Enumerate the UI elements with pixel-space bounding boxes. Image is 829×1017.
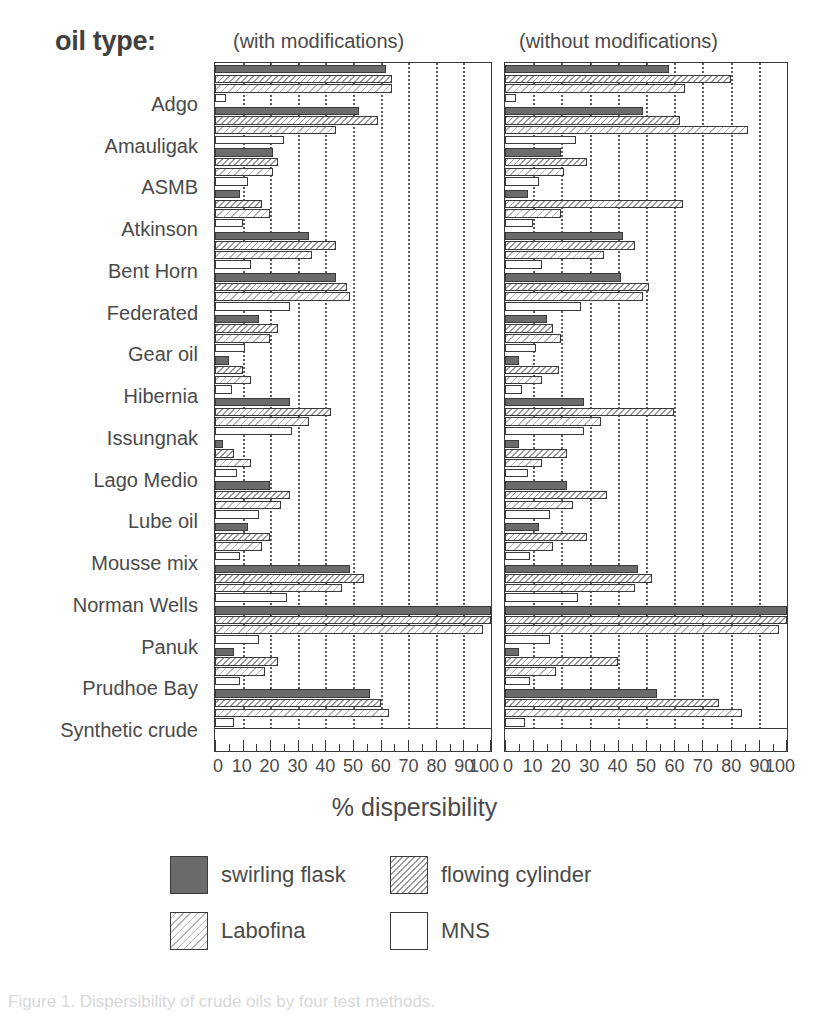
category-label-synthetic-crude: Synthetic crude: [60, 720, 198, 740]
x-tick-40: [325, 740, 326, 751]
bar-mns: [505, 593, 578, 601]
category-label-prudhoe-bay: Prudhoe Bay: [82, 678, 198, 698]
bar-swirling-flask: [215, 65, 386, 73]
bar-group-atkinson: [505, 188, 787, 230]
legend-swatch-flowing-cylinder: [390, 856, 428, 894]
bar-swirling-flask: [505, 440, 519, 448]
bar-group-lube-oil: [505, 479, 787, 521]
legend-label-flowing-cylinder: flowing cylinder: [441, 862, 591, 888]
x-tick-80: [731, 740, 732, 751]
x-tick-100: [786, 740, 787, 751]
bar-swirling-flask: [505, 356, 519, 364]
bar-swirling-flask: [505, 273, 621, 281]
category-label-norman-wells: Norman Wells: [73, 595, 198, 615]
bar-group-gear-oil: [215, 313, 491, 355]
bar-labofina: [505, 168, 564, 176]
bar-swirling-flask: [505, 606, 787, 614]
x-axis-band-left: [215, 728, 491, 751]
legend-item-mns: MNS: [390, 908, 490, 954]
bar-flowing-cylinder: [215, 324, 278, 332]
bar-labofina: [215, 292, 350, 300]
panel-title-without-modifications: (without modifications): [519, 30, 718, 53]
category-label-asmb: ASMB: [141, 177, 198, 197]
bar-swirling-flask: [505, 148, 561, 156]
x-minortick-20: [284, 744, 285, 751]
bar-group-panuk: [505, 604, 787, 646]
x-minortick-90: [773, 744, 774, 751]
bar-swirling-flask: [215, 523, 248, 531]
legend-label-swirling-flask: swirling flask: [221, 862, 346, 888]
bar-swirling-flask: [505, 107, 643, 115]
x-minortick-80: [450, 744, 451, 751]
bar-flowing-cylinder: [505, 533, 587, 541]
bar-group-issungnak: [215, 396, 491, 438]
bar-labofina: [215, 709, 389, 717]
category-label-issungnak: Issungnak: [107, 428, 198, 448]
bar-group-lago-medio: [505, 438, 787, 480]
bar-mns: [215, 510, 259, 518]
x-tick-label-20: 20: [260, 756, 280, 777]
bar-mns: [215, 136, 284, 144]
x-tick-label-100: 100: [469, 756, 499, 777]
category-label-column: AdgoAmauligakASMBAtkinsonBent HornFedera…: [0, 84, 206, 752]
x-tick-20: [561, 740, 562, 751]
x-tick-label-60: 60: [664, 756, 684, 777]
x-minortick-30: [604, 744, 605, 751]
x-tick-10: [533, 740, 534, 751]
bar-group-bent-horn: [505, 230, 787, 272]
bar-swirling-flask: [505, 648, 519, 656]
bar-group-atkinson: [215, 188, 491, 230]
legend-swatch-labofina: [170, 912, 208, 950]
x-minortick-90: [477, 744, 478, 751]
x-tick-label-20: 20: [551, 756, 571, 777]
bar-mns: [215, 385, 232, 393]
bar-group-asmb: [505, 146, 787, 188]
bar-labofina: [505, 126, 748, 134]
bar-swirling-flask: [505, 565, 638, 573]
bar-flowing-cylinder: [505, 491, 607, 499]
bar-swirling-flask: [215, 107, 359, 115]
x-tick-10: [243, 740, 244, 751]
x-tick-label-80: 80: [721, 756, 741, 777]
x-minortick-70: [422, 744, 423, 751]
bar-swirling-flask: [215, 440, 223, 448]
bar-flowing-cylinder: [505, 657, 618, 665]
bar-mns: [215, 94, 226, 102]
bar-labofina: [505, 667, 556, 675]
x-tick-labels-right: 0102030405060708090100: [504, 756, 788, 782]
x-tick-label-60: 60: [371, 756, 391, 777]
x-tick-label-10: 10: [522, 756, 542, 777]
bar-mns: [505, 469, 528, 477]
bar-mns: [505, 344, 536, 352]
plot-panel-with-modifications: [214, 62, 492, 752]
category-label-hibernia: Hibernia: [124, 386, 198, 406]
bar-mns: [505, 552, 530, 560]
x-minortick-10: [547, 744, 548, 751]
bar-mns: [215, 718, 234, 726]
bar-labofina: [215, 542, 262, 550]
category-label-bent-horn: Bent Horn: [108, 261, 198, 281]
bar-mns: [215, 302, 290, 310]
bar-group-norman-wells: [505, 563, 787, 605]
x-tick-40: [618, 740, 619, 751]
bar-flowing-cylinder: [505, 241, 635, 249]
bar-mns: [505, 260, 542, 268]
bar-group-synthetic-crude: [215, 687, 491, 729]
category-label-gear-oil: Gear oil: [128, 344, 198, 364]
x-tick-label-40: 40: [608, 756, 628, 777]
bar-flowing-cylinder: [215, 574, 364, 582]
bar-flowing-cylinder: [505, 324, 553, 332]
bar-group-gear-oil: [505, 313, 787, 355]
x-tick-30: [298, 740, 299, 751]
plot-area-right: [505, 63, 787, 729]
bar-mns: [505, 427, 584, 435]
bar-swirling-flask: [215, 481, 270, 489]
x-tick-0: [505, 740, 506, 751]
x-tick-60: [674, 740, 675, 751]
x-tick-70: [702, 740, 703, 751]
x-minortick-0: [229, 744, 230, 751]
bar-flowing-cylinder: [215, 75, 392, 83]
bar-flowing-cylinder: [215, 158, 278, 166]
x-tick-label-80: 80: [426, 756, 446, 777]
bar-labofina: [505, 625, 779, 633]
